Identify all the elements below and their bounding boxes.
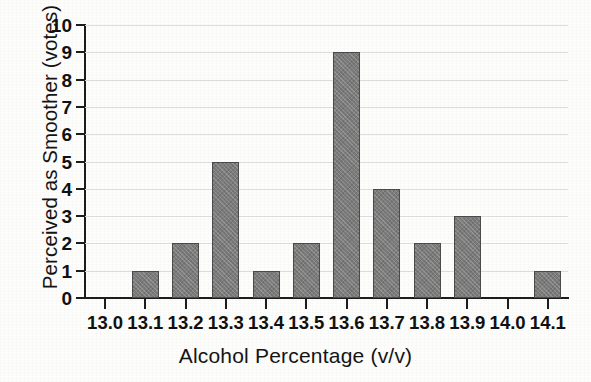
y-axis-tick-mark	[76, 133, 85, 135]
x-axis-tick-mark	[104, 299, 106, 309]
y-axis-tick-label: 4	[44, 180, 72, 199]
x-axis-tick-mark	[225, 299, 227, 309]
y-axis-tick-label: 5	[44, 153, 72, 172]
y-axis-tick-label: 3	[44, 207, 72, 226]
plot-area	[85, 25, 568, 298]
gridline	[85, 216, 568, 217]
y-axis-tick-mark	[76, 242, 85, 244]
gridline	[85, 25, 568, 26]
y-axis-tick-mark	[76, 106, 85, 108]
x-axis-tick-mark	[547, 299, 549, 309]
y-axis-tick-mark	[76, 188, 85, 190]
bar	[132, 271, 159, 298]
y-axis-tick-label: 0	[44, 289, 72, 308]
bar	[253, 271, 280, 298]
y-axis-tick-label: 9	[44, 43, 72, 62]
y-axis-tick-label: 7	[44, 98, 72, 117]
x-axis-tick-label: 14.1	[516, 314, 580, 333]
x-axis-tick-mark	[386, 299, 388, 309]
gridline	[85, 52, 568, 53]
y-axis-tick-mark	[76, 297, 85, 299]
x-axis-title: Alcohol Percentage (v/v)	[0, 344, 591, 368]
x-axis-tick-mark	[466, 299, 468, 309]
y-axis-tick-mark	[76, 215, 85, 217]
bar	[212, 162, 239, 299]
y-axis-tick-mark	[76, 24, 85, 26]
x-axis-tick-mark	[305, 299, 307, 309]
gridline	[85, 162, 568, 163]
x-axis-tick-mark	[144, 299, 146, 309]
x-axis-tick-mark	[265, 299, 267, 309]
y-axis-tick-label: 2	[44, 234, 72, 253]
gridline	[85, 189, 568, 190]
bar	[172, 243, 199, 298]
y-axis-tick-mark	[76, 270, 85, 272]
gridline	[85, 134, 568, 135]
x-axis-tick-mark	[507, 299, 509, 309]
gridline	[85, 107, 568, 108]
bar	[373, 189, 400, 298]
y-axis-tick-mark	[76, 79, 85, 81]
gridline	[85, 243, 568, 244]
bar	[534, 271, 561, 298]
x-axis-tick-mark	[346, 299, 348, 309]
bar	[414, 243, 441, 298]
gridline	[85, 80, 568, 81]
bar	[293, 243, 320, 298]
chart-figure: Perceived as Smoother (votes) 1098765432…	[0, 0, 591, 382]
y-axis-tick-label: 6	[44, 125, 72, 144]
y-axis-tick-label: 10	[44, 16, 72, 35]
y-axis-tick-label: 1	[44, 262, 72, 281]
x-axis-tick-mark	[185, 299, 187, 309]
bar	[333, 52, 360, 298]
y-axis-tick-label: 8	[44, 71, 72, 90]
bar	[454, 216, 481, 298]
y-axis-tick-labels: 109876543210	[38, 0, 72, 382]
x-axis-tick-mark	[426, 299, 428, 309]
y-axis-tick-mark	[76, 161, 85, 163]
y-axis-tick-mark	[76, 51, 85, 53]
